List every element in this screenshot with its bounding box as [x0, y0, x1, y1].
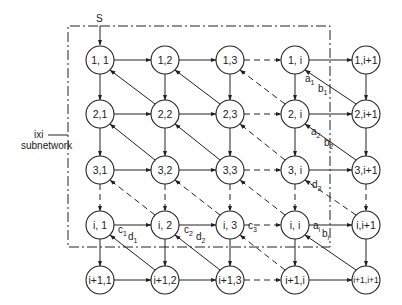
node-ni3: i, 3 [216, 211, 244, 239]
node-label: 3,i+1 [354, 164, 377, 176]
node-label: i, 2 [158, 219, 172, 231]
edge-label-d1: d1 [128, 231, 138, 244]
node-n2i1: 2,i+1 [352, 100, 380, 128]
edge-label-c1: c1 [118, 224, 127, 237]
node-label: 1,3 [223, 54, 238, 66]
node-label: 3,1 [93, 164, 108, 176]
edge-label-b2: b2 [324, 137, 334, 150]
node-n3i1: 3,i+1 [352, 156, 380, 184]
node-nii1: i,i+1 [352, 211, 380, 239]
node-label: 2,1 [93, 108, 108, 120]
node-n23: 2,3 [216, 100, 244, 128]
node-label: i, 1 [93, 219, 107, 231]
source-label: S [96, 13, 103, 24]
node-ni2: i, 2 [151, 211, 179, 239]
node-n2i: 2, i [281, 100, 309, 128]
node-label: 2,2 [158, 108, 173, 120]
node-ni1i: i+1,i [281, 266, 309, 294]
edge-label-bi: bi [322, 228, 330, 241]
node-label: i+1,2 [153, 274, 176, 286]
edge-label-ai: ai [313, 220, 321, 233]
node-n31: 3,1 [86, 156, 114, 184]
node-label: i+1,3 [218, 274, 241, 286]
node-label: i, 3 [223, 219, 237, 231]
node-n33: 3,3 [216, 156, 244, 184]
node-label: 3, i [288, 164, 302, 176]
node-label: 1,2 [158, 54, 173, 66]
node-ni11: i+1,1 [86, 266, 114, 294]
node-label: 1, 1 [91, 54, 109, 66]
edge-label-a2: a2 [311, 126, 321, 139]
node-n21: 2,1 [86, 100, 114, 128]
node-n11: 1, 1 [86, 46, 114, 74]
node-n1i1: 1,i+1 [352, 46, 380, 74]
node-n22: 2,2 [151, 100, 179, 128]
node-label: i,i+1 [356, 219, 376, 231]
node-ni1i1: i+1,i+1 [352, 266, 380, 294]
node-ni12: i+1,2 [151, 266, 179, 294]
subnetwork-label-1: ixi [34, 129, 43, 140]
node-ni13: i+1,3 [216, 266, 244, 294]
node-nii: i, i [281, 211, 309, 239]
network-diagram: S ixi subnetwork [0, 0, 402, 305]
node-n13: 1,3 [216, 46, 244, 74]
subnetwork-label-2: subnetwork [21, 140, 73, 151]
edge-label-b1: b1 [318, 83, 328, 96]
node-label: 2,3 [223, 108, 238, 120]
node-n3i: 3, i [281, 156, 309, 184]
node-label: i+1,i [285, 274, 305, 286]
node-label: 3,3 [223, 164, 238, 176]
node-label: i+1,i+1 [353, 275, 379, 285]
edge-label-d3: d3 [312, 179, 322, 192]
node-label: i+1,1 [88, 274, 111, 286]
node-label: 2, i [288, 108, 302, 120]
node-n12: 1,2 [151, 46, 179, 74]
node-n1i: 1, i [281, 46, 309, 74]
node-label: 3,2 [158, 164, 173, 176]
edge-label-c2: c2 [184, 224, 193, 237]
edge-label-d2: d2 [196, 231, 206, 244]
node-label: i, i [290, 219, 301, 231]
node-ni1: i, 1 [86, 211, 114, 239]
node-label: 2,i+1 [354, 108, 377, 120]
node-n32: 3,2 [151, 156, 179, 184]
node-label: 1, i [288, 54, 302, 66]
node-label: 1,i+1 [354, 54, 377, 66]
edge-label-c3: c3 [248, 220, 257, 233]
